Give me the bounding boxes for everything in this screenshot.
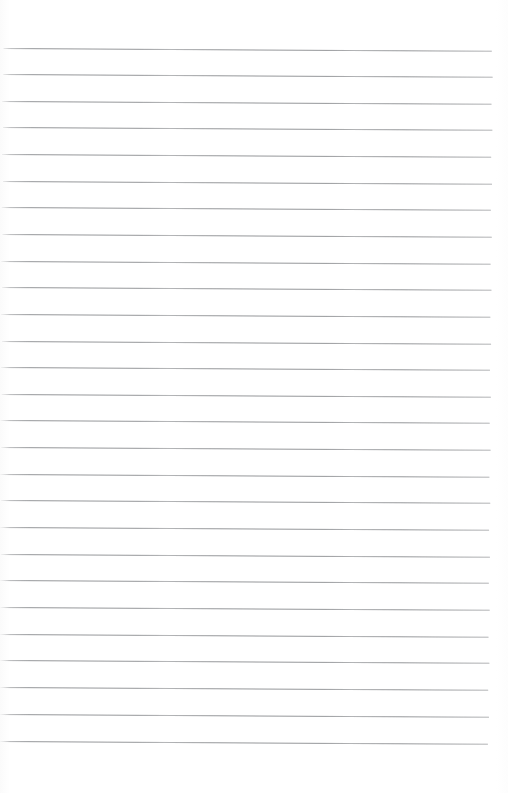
ruled-line <box>4 74 493 78</box>
ruled-line <box>0 714 489 718</box>
ruled-line <box>0 687 488 691</box>
ruled-line <box>1 367 490 371</box>
ruled-line <box>0 741 488 745</box>
ruled-line <box>1 500 490 504</box>
ruled-line <box>2 207 491 211</box>
ruled-line <box>3 234 492 238</box>
ruled-line <box>1 314 490 318</box>
ruled-line <box>3 181 492 185</box>
ruled-line <box>2 154 491 158</box>
ruled-line <box>3 127 492 131</box>
ruled-line <box>2 341 491 345</box>
ruled-line <box>0 660 489 664</box>
ruled-line <box>4 48 492 52</box>
ruled-line <box>2 287 491 291</box>
ruled-line <box>0 527 489 531</box>
ruled-line <box>2 261 491 265</box>
ruled-line <box>1 607 490 611</box>
page-canvas <box>0 0 508 793</box>
ruled-line <box>2 394 491 398</box>
paper-sheet <box>0 0 508 793</box>
ruled-line <box>0 580 489 584</box>
ruled-line <box>1 420 490 424</box>
ruled-line <box>0 474 489 478</box>
ruled-line <box>1 447 490 451</box>
ruled-lines-group <box>0 0 508 793</box>
ruled-line <box>1 554 490 558</box>
ruled-line <box>0 634 488 638</box>
ruled-line <box>2 101 491 105</box>
